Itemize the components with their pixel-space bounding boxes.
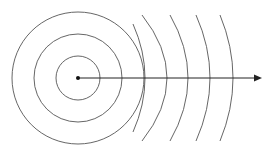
source-dot bbox=[76, 76, 80, 80]
wavefront-diagram bbox=[0, 0, 268, 154]
propagation-arrow bbox=[78, 75, 262, 82]
arrowhead-icon bbox=[254, 75, 262, 82]
source-point bbox=[76, 76, 80, 80]
diagram-canvas bbox=[0, 0, 268, 154]
